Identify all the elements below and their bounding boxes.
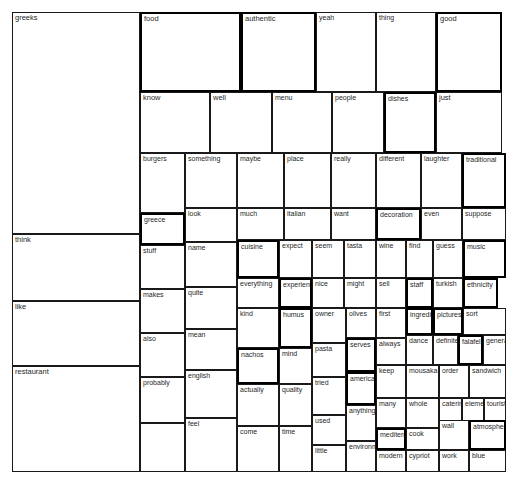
treemap-cell[interactable]: staff: [406, 278, 433, 308]
treemap-cell[interactable]: anything: [346, 405, 376, 441]
treemap-cell[interactable]: little: [312, 445, 346, 472]
treemap-cell-label: makes: [143, 290, 164, 299]
treemap-cell[interactable]: come: [237, 426, 279, 472]
treemap-cell[interactable]: general: [483, 335, 506, 365]
treemap-cell[interactable]: expect: [279, 240, 312, 278]
treemap-cell[interactable]: want: [331, 208, 376, 240]
treemap-cell[interactable]: dishes: [384, 92, 436, 153]
treemap-cell[interactable]: tasta: [344, 240, 376, 278]
treemap-cell[interactable]: humus: [279, 308, 312, 348]
treemap-cell[interactable]: sort: [463, 308, 506, 335]
treemap-cell[interactable]: mean: [185, 329, 237, 370]
treemap-cell[interactable]: traditional: [462, 153, 506, 208]
treemap-cell[interactable]: look: [185, 208, 237, 242]
treemap-cell[interactable]: food: [140, 12, 241, 92]
treemap-cell[interactable]: music: [463, 240, 506, 278]
treemap-cell[interactable]: kind: [237, 308, 279, 348]
treemap-cell[interactable]: might: [344, 278, 376, 308]
treemap-cell[interactable]: cook: [406, 428, 439, 450]
treemap-cell[interactable]: cuisine: [237, 240, 279, 278]
treemap-cell[interactable]: greece: [140, 213, 185, 245]
treemap-cell[interactable]: quality: [279, 384, 312, 426]
treemap-cell[interactable]: burgers: [140, 153, 185, 213]
treemap-cell[interactable]: greeks: [12, 12, 140, 234]
treemap-cell[interactable]: work: [439, 450, 469, 472]
treemap-cell[interactable]: nice: [312, 278, 344, 308]
treemap-cell[interactable]: always: [376, 338, 406, 365]
treemap-cell[interactable]: think: [12, 234, 140, 301]
treemap-cell[interactable]: cypriot: [406, 450, 439, 472]
treemap-cell-label: want: [334, 209, 349, 218]
treemap-cell[interactable]: actually: [237, 384, 279, 426]
treemap-cell[interactable]: nachos: [237, 348, 279, 384]
treemap-cell[interactable]: stuff: [140, 245, 185, 289]
treemap-cell[interactable]: many: [376, 398, 406, 428]
treemap-cell[interactable]: maybe: [237, 153, 284, 208]
treemap-cell[interactable]: ethnicity: [463, 278, 498, 308]
treemap-cell[interactable]: wall: [439, 420, 469, 450]
treemap-cell[interactable]: experience: [279, 278, 312, 308]
treemap-cell[interactable]: blue: [469, 450, 506, 472]
treemap-cell[interactable]: different: [376, 153, 421, 208]
treemap-cell[interactable]: authentic: [241, 12, 316, 92]
treemap-cell[interactable]: definitely: [433, 335, 458, 365]
treemap-cell[interactable]: serves: [346, 338, 376, 372]
treemap-cell[interactable]: everything: [237, 278, 279, 308]
treemap-cell[interactable]: sell: [376, 278, 406, 308]
treemap-cell[interactable]: owner: [312, 308, 346, 343]
treemap-cell[interactable]: decoration: [376, 208, 421, 240]
treemap-cell[interactable]: time: [279, 426, 312, 472]
treemap-cell[interactable]: laughter: [421, 153, 462, 208]
treemap-cell[interactable]: also: [140, 333, 185, 377]
treemap-cell[interactable]: feel: [185, 418, 237, 472]
treemap-cell[interactable]: [140, 423, 185, 472]
treemap-cell[interactable]: italian: [284, 208, 331, 240]
treemap-cell[interactable]: olives: [346, 308, 376, 338]
treemap-cell[interactable]: just: [436, 92, 502, 153]
treemap-cell[interactable]: people: [332, 92, 384, 153]
treemap-cell[interactable]: good: [436, 12, 502, 92]
treemap-cell[interactable]: pictures: [433, 308, 463, 335]
treemap-cell[interactable]: dance: [406, 335, 433, 365]
treemap-cell[interactable]: name: [185, 242, 237, 287]
treemap-cell[interactable]: makes: [140, 289, 185, 333]
treemap-cell[interactable]: used: [312, 415, 346, 445]
treemap-cell[interactable]: english: [185, 370, 237, 418]
treemap-cell[interactable]: yeah: [316, 12, 376, 92]
treemap-cell[interactable]: modern: [376, 450, 406, 472]
treemap-cell[interactable]: thing: [376, 12, 436, 92]
treemap-cell[interactable]: first: [376, 308, 406, 338]
treemap-cell[interactable]: seem: [312, 240, 344, 278]
treemap-cell[interactable]: falafel: [458, 335, 483, 365]
treemap-cell[interactable]: restaurant: [12, 366, 140, 472]
treemap-cell[interactable]: whole: [406, 398, 439, 428]
treemap-cell[interactable]: environment: [346, 441, 376, 472]
treemap-cell[interactable]: mind: [279, 348, 312, 384]
treemap-cell[interactable]: mousaka: [406, 365, 439, 398]
treemap-cell[interactable]: place: [284, 153, 331, 208]
treemap-cell[interactable]: really: [331, 153, 376, 208]
treemap-cell[interactable]: wine: [376, 240, 406, 278]
treemap-cell[interactable]: tried: [312, 377, 346, 415]
treemap-cell[interactable]: well: [210, 92, 272, 153]
treemap-cell[interactable]: menu: [272, 92, 332, 153]
treemap-cell[interactable]: america: [346, 372, 376, 405]
treemap-cell[interactable]: much: [237, 208, 284, 240]
treemap-cell[interactable]: probably: [140, 377, 185, 423]
treemap-cell[interactable]: mediterranean: [376, 428, 406, 450]
treemap-cell[interactable]: find: [406, 240, 433, 278]
treemap-cell[interactable]: pasta: [312, 343, 346, 377]
treemap-cell[interactable]: know: [140, 92, 210, 153]
treemap-cell[interactable]: keep: [376, 365, 406, 398]
treemap-cell[interactable]: sandwich: [469, 365, 506, 398]
treemap-cell[interactable]: ingredient: [406, 308, 433, 335]
treemap-cell[interactable]: like: [12, 301, 140, 366]
treemap-cell[interactable]: turkish: [433, 278, 463, 308]
treemap-cell[interactable]: something: [185, 153, 237, 208]
treemap-cell[interactable]: suppose: [462, 208, 506, 240]
treemap-cell[interactable]: even: [421, 208, 462, 240]
treemap-cell[interactable]: order: [439, 365, 469, 398]
treemap-cell[interactable]: quite: [185, 287, 237, 329]
treemap-cell[interactable]: atmosphere: [469, 420, 506, 450]
treemap-cell[interactable]: guess: [433, 240, 463, 278]
